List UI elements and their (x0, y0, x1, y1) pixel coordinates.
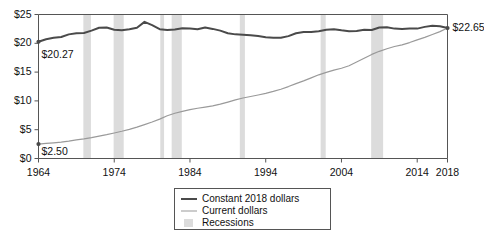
y-axis-label: $20 (0, 36, 32, 48)
x-axis-label: 2014 (401, 166, 433, 178)
legend-line-swatch-constant (181, 193, 197, 204)
recession-band (83, 15, 91, 159)
recession-band (172, 15, 182, 159)
legend-label-current: Current dollars (202, 205, 268, 216)
data-annotation: $22.65 (453, 21, 484, 33)
annotation-marker (36, 40, 40, 44)
recession-band (114, 15, 124, 159)
recession-band (371, 15, 383, 159)
x-axis-label: 2018 (432, 166, 464, 178)
y-axis-label: $0 (0, 152, 32, 164)
y-axis-label: $25 (0, 8, 32, 20)
legend-item-recessions: Recessions (181, 217, 324, 228)
chart-legend: Constant 2018 dollars Current dollars Re… (174, 188, 331, 230)
recession-band (240, 15, 245, 159)
y-axis-label: $5 (0, 123, 32, 135)
legend-line-swatch-current (181, 205, 197, 216)
x-axis-label: 2004 (325, 166, 357, 178)
recession-band (160, 15, 164, 159)
legend-item-current-dollars: Current dollars (181, 205, 324, 216)
data-annotation: $2.50 (42, 145, 68, 157)
x-axis-label: 1994 (250, 166, 282, 178)
legend-box-swatch-recessions (181, 217, 197, 228)
legend-item-constant-dollars: Constant 2018 dollars (181, 193, 324, 204)
legend-label-recessions: Recessions (202, 217, 254, 228)
y-axis-label: $10 (0, 94, 32, 106)
x-axis-label: 1964 (23, 166, 55, 178)
y-axis-label: $15 (0, 65, 32, 77)
data-annotation: $20.27 (42, 48, 74, 60)
annotation-marker (36, 142, 40, 146)
annotation-marker (445, 26, 449, 30)
x-axis-label: 1984 (174, 166, 206, 178)
x-axis-label: 1974 (98, 166, 130, 178)
legend-label-constant: Constant 2018 dollars (202, 193, 299, 204)
recession-band (321, 15, 326, 159)
